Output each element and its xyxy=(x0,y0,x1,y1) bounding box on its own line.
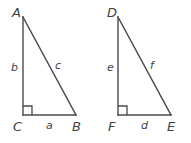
side-label-d: d xyxy=(141,120,148,131)
triangles-svg xyxy=(0,0,191,143)
vertex-label-b: B xyxy=(72,120,81,133)
vertex-label-f: F xyxy=(108,120,116,133)
side-label-b: b xyxy=(11,62,18,73)
right-angle-marker-f xyxy=(118,106,127,115)
side-label-c: c xyxy=(55,60,61,71)
vertex-label-d: D xyxy=(107,6,117,19)
right-angle-marker-c xyxy=(23,106,32,115)
side-label-e: e xyxy=(107,62,114,73)
segment-ab-hypotenuse xyxy=(23,17,76,115)
triangle-abc-shape xyxy=(23,17,76,115)
geometry-figure: A C B b c a D F E e f d xyxy=(0,0,191,143)
segment-de-hypotenuse xyxy=(118,17,171,115)
vertex-label-c: C xyxy=(13,120,22,133)
side-label-f: f xyxy=(150,60,154,71)
triangle-def-shape xyxy=(118,17,171,115)
vertex-label-a: A xyxy=(12,6,21,19)
vertex-label-e: E xyxy=(167,120,175,133)
side-label-a: a xyxy=(46,120,53,131)
